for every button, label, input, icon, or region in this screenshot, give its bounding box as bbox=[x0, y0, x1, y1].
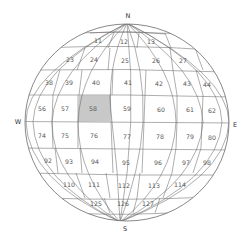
cell-label-93[interactable]: 93 bbox=[65, 158, 73, 165]
cell-label-79[interactable]: 79 bbox=[186, 133, 194, 140]
cell-label-98[interactable]: 98 bbox=[203, 159, 211, 166]
cell-label-97[interactable]: 97 bbox=[182, 159, 190, 166]
cell-label-42[interactable]: 42 bbox=[155, 80, 163, 87]
cell-label-126[interactable]: 126 bbox=[117, 200, 129, 207]
cell-label-80[interactable]: 80 bbox=[208, 134, 216, 141]
cell-label-96[interactable]: 96 bbox=[154, 159, 162, 166]
cell-label-27[interactable]: 27 bbox=[179, 57, 187, 64]
compass-east: E bbox=[233, 121, 237, 129]
globe-diagram: N S W E 11121323242526273839404142434456… bbox=[0, 0, 250, 244]
cell-label-95[interactable]: 95 bbox=[122, 159, 130, 166]
cell-label-40[interactable]: 40 bbox=[92, 79, 100, 86]
cell-label-78[interactable]: 78 bbox=[156, 133, 164, 140]
cell-label-127[interactable]: 127 bbox=[142, 200, 154, 207]
cell-label-56[interactable]: 56 bbox=[38, 105, 46, 112]
cell-label-114[interactable]: 114 bbox=[174, 181, 186, 188]
cell-label-74[interactable]: 74 bbox=[38, 132, 46, 139]
compass-north: N bbox=[126, 12, 131, 20]
cell-label-41[interactable]: 41 bbox=[124, 79, 132, 86]
cell-label-23[interactable]: 23 bbox=[66, 56, 74, 63]
compass-south: S bbox=[123, 225, 127, 233]
cell-label-60[interactable]: 60 bbox=[157, 106, 165, 113]
cell-label-75[interactable]: 75 bbox=[61, 132, 69, 139]
cell-label-61[interactable]: 61 bbox=[186, 106, 194, 113]
cell-label-110[interactable]: 110 bbox=[63, 181, 75, 188]
cell-label-57[interactable]: 57 bbox=[61, 105, 69, 112]
cell-label-113[interactable]: 113 bbox=[148, 182, 160, 189]
cell-label-125[interactable]: 125 bbox=[90, 200, 102, 207]
cell-label-12[interactable]: 12 bbox=[120, 38, 128, 45]
compass-west: W bbox=[15, 118, 22, 126]
cell-label-13[interactable]: 13 bbox=[147, 38, 155, 45]
cell-label-44[interactable]: 44 bbox=[203, 81, 211, 88]
cell-label-58[interactable]: 58 bbox=[89, 105, 97, 112]
cell-label-38[interactable]: 38 bbox=[45, 79, 53, 86]
cell-label-112[interactable]: 112 bbox=[118, 182, 130, 189]
cell-label-59[interactable]: 59 bbox=[123, 105, 131, 112]
cell-label-94[interactable]: 94 bbox=[91, 158, 99, 165]
cell-label-25[interactable]: 25 bbox=[121, 57, 129, 64]
cell-label-26[interactable]: 26 bbox=[152, 57, 160, 64]
cell-label-77[interactable]: 77 bbox=[123, 133, 131, 140]
cell-label-24[interactable]: 24 bbox=[90, 56, 98, 63]
cell-label-11[interactable]: 11 bbox=[94, 37, 102, 44]
cell-label-76[interactable]: 76 bbox=[90, 132, 98, 139]
cell-label-62[interactable]: 62 bbox=[208, 107, 216, 114]
cell-label-39[interactable]: 39 bbox=[65, 79, 73, 86]
cell-label-43[interactable]: 43 bbox=[183, 80, 191, 87]
cell-label-111[interactable]: 111 bbox=[88, 181, 100, 188]
cell-label-92[interactable]: 92 bbox=[44, 157, 52, 164]
